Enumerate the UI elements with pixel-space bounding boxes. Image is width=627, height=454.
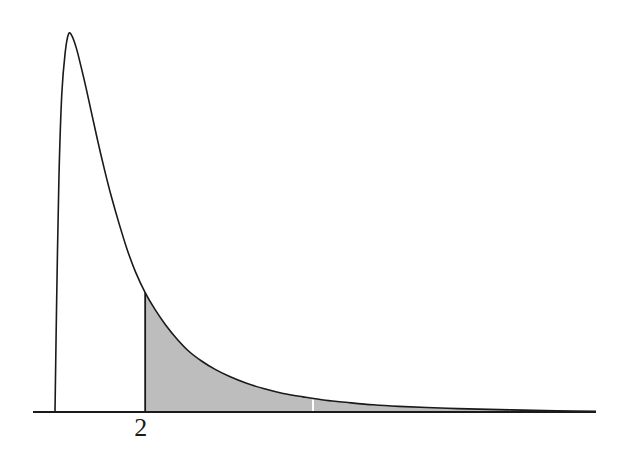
chart-figure: 2	[0, 0, 627, 454]
density-curve-path	[55, 33, 596, 412]
shaded-tail-region	[145, 293, 596, 412]
x-axis-tick-label-2: 2	[134, 415, 147, 441]
density-plot-svg	[0, 0, 627, 454]
